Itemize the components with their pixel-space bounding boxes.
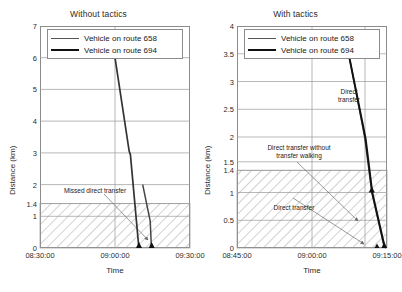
plot-svg [237, 26, 387, 248]
y-tick: 7 [33, 22, 37, 31]
y-axis-ticks: 0 1 1.4 2 3 4 5 6 7 [14, 26, 37, 248]
y-tick: 4 [230, 22, 234, 31]
legend: Vehicle on route 658 Vehicle on route 69… [47, 29, 183, 59]
y-tick: 2 [33, 180, 37, 189]
y-axis-ticks: 0 0.5 1 1.4 1.5 2 2.5 3 3.5 4 [209, 26, 234, 248]
panel-with-tactics: With tactics Distance (km) 0 0.5 1 1.4 1… [197, 0, 394, 292]
legend-line-icon [51, 38, 79, 39]
plot-svg [40, 26, 190, 248]
walking-catchment-band [40, 204, 190, 248]
y-tick: 4 [33, 117, 37, 126]
y-tick: 3 [33, 148, 37, 157]
legend-line-icon [248, 49, 276, 51]
legend-label: Vehicle on route 658 [84, 34, 157, 43]
legend-label: Vehicle on route 694 [281, 46, 354, 55]
y-tick: 5 [33, 85, 37, 94]
legend-item-route-694: Vehicle on route 694 [51, 44, 178, 56]
legend-item-route-658: Vehicle on route 658 [51, 32, 178, 44]
annotation-direct-transfer-without-walking: Direct transfer without transfer walking [267, 144, 330, 159]
x-axis-label: Time [237, 266, 387, 275]
legend-line-icon [51, 49, 79, 51]
legend: Vehicle on route 658 Vehicle on route 69… [244, 29, 380, 59]
x-tick: 09:00:00 [297, 251, 326, 260]
y-tick: 1 [33, 212, 37, 221]
plot-area: Vehicle on route 658 Vehicle on route 69… [237, 26, 387, 248]
legend-item-route-658: Vehicle on route 658 [248, 32, 375, 44]
y-tick: 3.5 [224, 49, 234, 58]
legend-label: Vehicle on route 694 [84, 46, 157, 55]
y-tick: 2.5 [224, 105, 234, 114]
panel-title: With tactics [197, 9, 394, 19]
x-tick: 09:00:00 [100, 251, 129, 260]
x-tick: 09:15:00 [372, 251, 401, 260]
y-tick: 1.4 [224, 166, 234, 175]
annotation-direct-transfer-band: Direct transfer [274, 204, 315, 212]
y-tick: 2 [230, 133, 234, 142]
y-tick: 1 [230, 188, 234, 197]
y-tick: 0.5 [224, 216, 234, 225]
legend-item-route-694: Vehicle on route 694 [248, 44, 375, 56]
legend-label: Vehicle on route 658 [281, 34, 354, 43]
annotation-direct-transfer-upper: Direct transfer [338, 88, 360, 103]
plot-area: Vehicle on route 658 Vehicle on route 69… [40, 26, 190, 248]
y-tick: 1.4 [27, 199, 37, 208]
y-tick: 3 [230, 77, 234, 86]
panel-without-tactics: Without tactics Distance (km) 0 1 1.4 2 … [0, 0, 197, 292]
x-axis-label: Time [40, 266, 190, 275]
y-tick: 1.5 [224, 157, 234, 166]
x-tick: 08:45:00 [222, 251, 251, 260]
annotation-missed-direct-transfer: Missed direct transfer [64, 187, 126, 195]
x-tick: 08:30:00 [25, 251, 54, 260]
y-tick: 6 [33, 53, 37, 62]
panel-title: Without tactics [0, 9, 197, 19]
legend-line-icon [248, 38, 276, 39]
